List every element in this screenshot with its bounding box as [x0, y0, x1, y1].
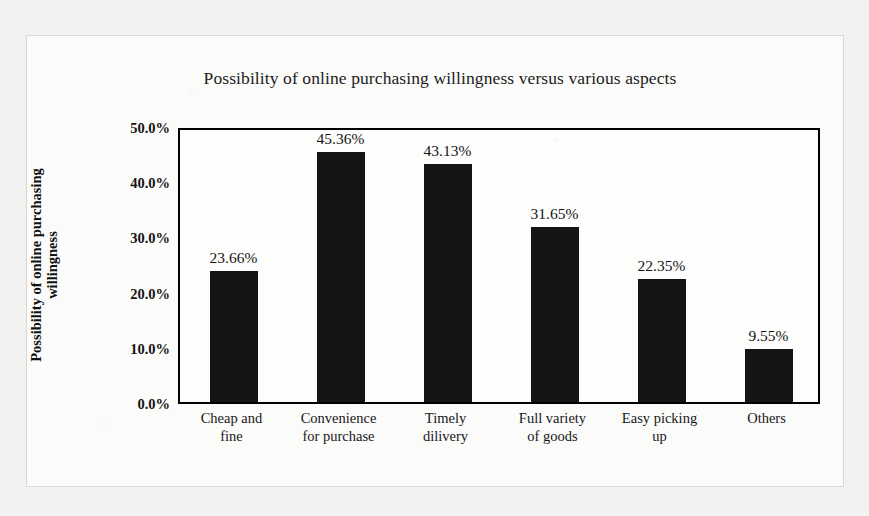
x-category-label-line: Others [713, 410, 820, 428]
bar[interactable] [638, 279, 686, 402]
x-category-label-line: up [606, 428, 713, 446]
x-category-label-line: dilivery [392, 428, 499, 446]
bar-value-label: 31.65% [531, 205, 579, 223]
bar-slot: 23.66% [180, 130, 287, 402]
y-tick-label: 20.0% [130, 285, 170, 302]
bar[interactable] [317, 152, 365, 402]
bar-value-label: 23.66% [210, 249, 258, 267]
x-category-label: Cheap andfine [178, 410, 285, 445]
x-category-label: Easy pickingup [606, 410, 713, 445]
bar-value-label: 9.55% [748, 327, 788, 345]
x-category-label-line: fine [178, 428, 285, 446]
x-category-label-line: Full variety [499, 410, 606, 428]
bar-slot: 9.55% [715, 130, 822, 402]
bars-layer: 23.66%45.36%43.13%31.65%22.35%9.55% [180, 130, 818, 402]
bar[interactable] [531, 227, 579, 402]
bar-value-label: 22.35% [638, 257, 686, 275]
y-tick-label: 30.0% [130, 230, 170, 247]
y-tick-label: 50.0% [130, 120, 170, 137]
y-axis-title-line-2: willingness [44, 168, 60, 362]
y-tick-label: 40.0% [130, 175, 170, 192]
x-axis-category-labels: Cheap andfineConveniencefor purchaseTime… [178, 410, 820, 468]
bar-slot: 22.35% [608, 130, 715, 402]
bar-value-label: 45.36% [317, 130, 365, 148]
x-category-label: Full varietyof goods [499, 410, 606, 445]
plot-area: 23.66%45.36%43.13%31.65%22.35%9.55% [178, 128, 820, 404]
x-category-label: Timelydilivery [392, 410, 499, 445]
bar-slot: 31.65% [501, 130, 608, 402]
bar[interactable] [745, 349, 793, 402]
chart-title: Possibility of online purchasing willing… [60, 68, 820, 89]
bar-slot: 43.13% [394, 130, 501, 402]
y-axis-title: Possibility of online purchasing willing… [22, 120, 66, 410]
bar[interactable] [210, 271, 258, 402]
x-category-label-line: Easy picking [606, 410, 713, 428]
y-axis-title-line-1: Possibility of online purchasing [28, 168, 44, 362]
x-category-label: Others [713, 410, 820, 428]
x-category-label: Conveniencefor purchase [285, 410, 392, 445]
bar[interactable] [424, 164, 472, 402]
x-category-label-line: Cheap and [178, 410, 285, 428]
y-axis-tick-labels: 0.0%10.0%20.0%30.0%40.0%50.0% [86, 120, 174, 412]
y-tick-label: 0.0% [137, 396, 170, 413]
bar-slot: 45.36% [287, 130, 394, 402]
x-category-label-line: Timely [392, 410, 499, 428]
x-category-label-line: of goods [499, 428, 606, 446]
x-category-label-line: for purchase [285, 428, 392, 446]
bar-value-label: 43.13% [424, 142, 472, 160]
x-category-label-line: Convenience [285, 410, 392, 428]
y-tick-label: 10.0% [130, 340, 170, 357]
bar-chart: Possibility of online purchasing willing… [0, 0, 869, 516]
